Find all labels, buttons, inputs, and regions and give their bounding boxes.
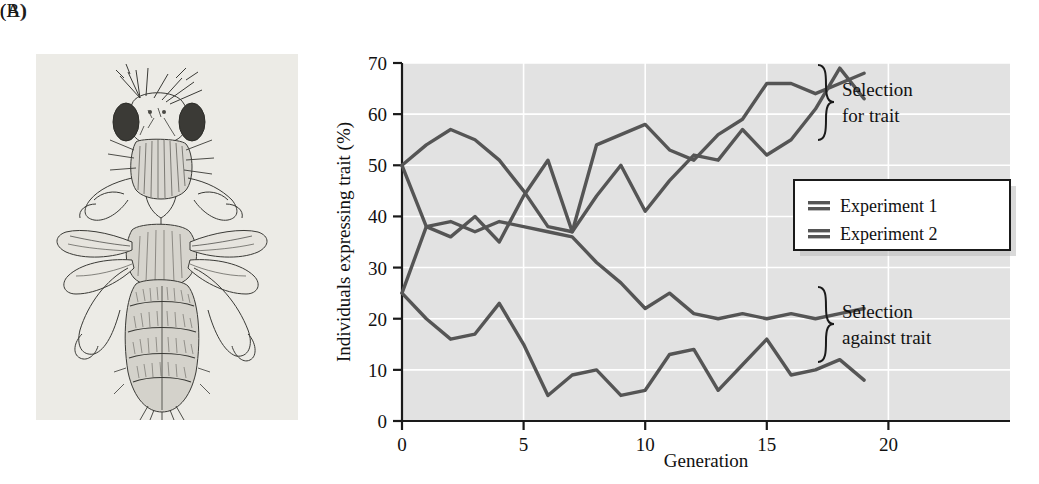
x-tick-label: 20 [879, 434, 898, 455]
legend-swatch-experiment-2b [808, 235, 830, 238]
legend-label-experiment-1: Experiment 1 [840, 196, 937, 216]
y-tick-label: 20 [368, 309, 387, 330]
annotation-selection-against-trait-line1: Selection [842, 301, 913, 322]
y-tick-label: 60 [368, 104, 387, 125]
legend-swatch-experiment-1 [808, 201, 830, 204]
x-tick-label: 5 [519, 434, 529, 455]
y-axis-tick-labels: 010203040506070 [368, 53, 387, 432]
y-tick-label: 70 [368, 53, 387, 74]
y-tick-label: 10 [368, 360, 387, 381]
fly-icon [36, 54, 298, 420]
y-tick-label: 30 [368, 258, 387, 279]
x-axis-title: Generation [664, 450, 749, 471]
y-axis-title: Individuals expressing trait (%) [333, 122, 355, 362]
legend-swatch-experiment-1b [808, 207, 830, 210]
legend-swatch-experiment-2 [808, 229, 830, 232]
annotation-selection-for-trait-line2: for trait [842, 105, 900, 126]
x-tick-label: 15 [757, 434, 776, 455]
x-axis-tick-labels: 05101520 [397, 434, 898, 455]
annotation-selection-for-trait-line1: Selection [842, 79, 913, 100]
y-tick-label: 50 [368, 155, 387, 176]
x-tick-label: 10 [636, 434, 655, 455]
panel-b-label: (B) [0, 0, 26, 22]
y-axis-ticks [393, 63, 402, 421]
y-tick-label: 0 [378, 411, 388, 432]
drosophila-illustration-panel [36, 54, 298, 420]
chart-legend[interactable]: Experiment 1 Experiment 2 [794, 180, 1016, 256]
selection-experiment-chart: 010203040506070 05101520 Generation Indi… [330, 30, 1030, 480]
legend-label-experiment-2: Experiment 2 [840, 224, 937, 244]
x-axis-ticks [402, 421, 888, 430]
x-tick-label: 0 [397, 434, 407, 455]
y-tick-label: 40 [368, 206, 387, 227]
annotation-selection-against-trait-line2: against trait [842, 327, 932, 348]
